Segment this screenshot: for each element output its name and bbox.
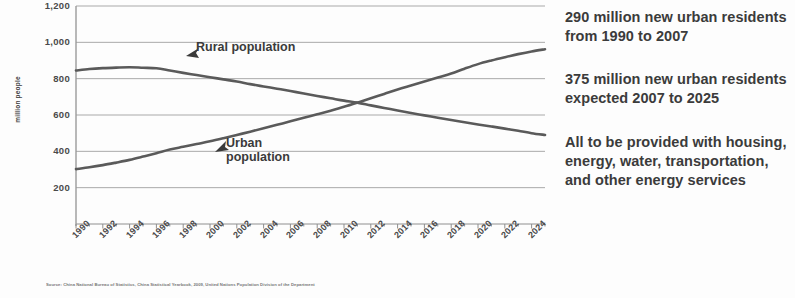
bullet-urban-growth-1990-2007: 290 million new urban residents from 199… bbox=[565, 8, 793, 46]
series-label-urban-line2: population bbox=[226, 150, 290, 164]
population-chart: million people 1,2001,000800600400200 19… bbox=[0, 0, 560, 298]
bullet-services-required: All to be provided with housing, energy,… bbox=[565, 133, 793, 190]
text-panel: 290 million new urban residents from 199… bbox=[565, 8, 793, 290]
x-axis-minor-ticks bbox=[76, 224, 545, 229]
series-label-urban-line1: Urban bbox=[226, 136, 262, 150]
bullet-urban-growth-2007-2025: 375 million new urban residents expected… bbox=[565, 70, 793, 108]
chart-source-note: Source: China National Bureau of Statist… bbox=[46, 283, 551, 288]
series-label-rural: Rural population bbox=[196, 40, 295, 54]
series-line-rural bbox=[76, 67, 545, 135]
series-label-urban: Urbanpopulation bbox=[226, 136, 290, 165]
slide-root: million people 1,2001,000800600400200 19… bbox=[0, 0, 795, 298]
